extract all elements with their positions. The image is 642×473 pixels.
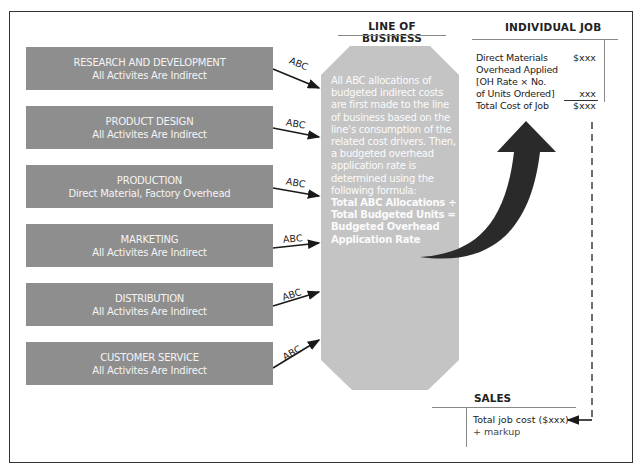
sales-divider bbox=[466, 407, 467, 447]
department-subtitle: All Activites Are Indirect bbox=[26, 364, 273, 377]
job-row-label: Total Cost of Job bbox=[476, 100, 549, 112]
department-box-distribution: DISTRIBUTION All Activites Are Indirect bbox=[26, 283, 273, 326]
job-row-label: [OH Rate × No. bbox=[476, 76, 546, 88]
department-box-production: PRODUCTION Direct Material, Factory Over… bbox=[26, 165, 273, 208]
sales-line: Total job cost ($xxx) bbox=[473, 414, 569, 426]
department-subtitle: All Activites Are Indirect bbox=[26, 246, 273, 259]
individual-job-title: INDIVIDUAL JOB bbox=[505, 21, 601, 33]
sales-underline bbox=[432, 407, 576, 408]
department-title: PRODUCT DESIGN bbox=[26, 115, 273, 128]
department-title: PRODUCTION bbox=[26, 174, 273, 187]
department-title: DISTRIBUTION bbox=[26, 292, 273, 305]
abc-arrow-1 bbox=[273, 69, 319, 88]
job-row-label: of Units Ordered] bbox=[476, 88, 554, 100]
sales-line: + markup bbox=[473, 426, 520, 438]
abc-arrow-2 bbox=[273, 128, 319, 137]
job-row-label: Overhead Applied bbox=[476, 64, 558, 76]
abc-arrow-4 bbox=[273, 243, 319, 248]
formula-line: Total ABC Allocations ÷ bbox=[331, 197, 459, 209]
line-of-business-text: All ABC allocations of budgeted indirect… bbox=[331, 75, 459, 246]
individual-job-underline bbox=[472, 39, 618, 40]
line-of-business-description: All ABC allocations of budgeted indirect… bbox=[331, 75, 456, 196]
abc-label: ABC bbox=[283, 232, 303, 245]
department-subtitle: All Activites Are Indirect bbox=[26, 69, 273, 82]
job-row-amount: $xxx bbox=[566, 52, 596, 64]
department-title: RESEARCH AND DEVELOPMENT bbox=[26, 56, 273, 69]
line-of-business-underline bbox=[338, 35, 446, 36]
department-title: CUSTOMER SERVICE bbox=[26, 351, 273, 364]
department-box-research: RESEARCH AND DEVELOPMENT All Activites A… bbox=[26, 47, 273, 90]
formula-line: Budgeted Overhead bbox=[331, 221, 459, 233]
line-of-business-title: LINE OF BUSINESS bbox=[337, 20, 447, 44]
individual-job-divider bbox=[604, 39, 605, 102]
job-row-amount: $xxx bbox=[566, 100, 596, 112]
department-box-customer-service: CUSTOMER SERVICE All Activites Are Indir… bbox=[26, 342, 273, 385]
department-subtitle: All Activites Are Indirect bbox=[26, 305, 273, 318]
department-subtitle: All Activites Are Indirect bbox=[26, 128, 273, 141]
sales-title: SALES bbox=[474, 392, 511, 404]
job-row-label: Direct Materials bbox=[476, 52, 548, 64]
department-box-marketing: MARKETING All Activites Are Indirect bbox=[26, 224, 273, 267]
formula-line: Application Rate bbox=[331, 234, 459, 246]
abc-arrow-3 bbox=[273, 188, 319, 196]
formula-line: Total Budgeted Units = bbox=[331, 209, 459, 221]
department-subtitle: Direct Material, Factory Overhead bbox=[26, 187, 273, 200]
job-row-amount: xxx bbox=[566, 88, 596, 100]
department-title: MARKETING bbox=[26, 233, 273, 246]
department-box-product-design: PRODUCT DESIGN All Activites Are Indirec… bbox=[26, 106, 273, 149]
